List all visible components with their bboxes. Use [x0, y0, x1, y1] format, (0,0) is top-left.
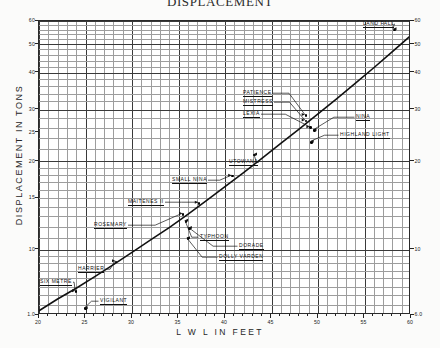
axis-tick-label: 30	[20, 106, 35, 112]
axis-tick-label: 45	[264, 319, 278, 325]
axis-tick	[354, 314, 355, 316]
annotation-utowana: UTOWANA	[229, 158, 258, 166]
axis-tick-label: 10	[20, 246, 35, 252]
axis-tick	[289, 314, 290, 316]
data-point	[84, 307, 87, 310]
chart-page: DISPLACEMENT DISPLACEMENT IN TONS L W L …	[0, 0, 440, 348]
data-point	[310, 141, 313, 144]
axis-tick	[410, 108, 414, 109]
axis-tick	[159, 314, 160, 316]
axis-tick	[224, 314, 225, 318]
axis-tick-label: 1.0	[20, 311, 35, 317]
axis-tick	[410, 160, 414, 161]
y-axis-title: DISPLACEMENT IN TONS	[14, 75, 24, 235]
axis-tick	[35, 43, 39, 44]
axis-tick-label: 35	[171, 319, 185, 325]
axis-tick	[410, 20, 414, 21]
axis-tick	[38, 314, 39, 318]
axis-tick	[400, 314, 401, 316]
axis-tick-label: 20	[20, 158, 35, 164]
axis-tick	[410, 314, 414, 315]
annotation-six-metre: SIX METRE	[40, 278, 72, 286]
axis-tick-label: 30	[415, 106, 431, 112]
axis-tick	[363, 314, 364, 318]
axis-tick	[103, 314, 104, 316]
axis-tick	[56, 314, 57, 316]
axis-tick	[112, 314, 113, 316]
axis-tick	[410, 248, 414, 249]
data-point	[185, 220, 188, 223]
axis-tick-label: 60	[415, 17, 431, 23]
axis-tick	[35, 20, 39, 21]
annotation-harrier: HARRIER	[78, 265, 104, 273]
axis-tick-label: 10	[415, 246, 431, 252]
chart-title: DISPLACEMENT	[0, 0, 440, 10]
axis-tick	[410, 43, 414, 44]
axis-tick	[298, 314, 299, 316]
axis-tick	[317, 314, 318, 318]
axis-tick	[345, 314, 346, 316]
annotation-patience: PATIENCE	[243, 89, 272, 97]
axis-tick-label: 20	[31, 319, 45, 325]
axis-tick	[382, 314, 383, 316]
data-point	[305, 114, 308, 117]
axis-tick	[35, 71, 39, 72]
x-axis-title: L W L IN FEET	[120, 327, 320, 337]
axis-tick-label: 30	[124, 319, 138, 325]
axis-tick-label: 60	[20, 17, 35, 23]
axis-tick	[35, 160, 39, 161]
axis-tick-label: 60	[403, 319, 417, 325]
annotation-small-nina: SMALL NINA	[172, 176, 207, 184]
axis-tick	[186, 314, 187, 316]
axis-tick	[372, 314, 373, 316]
axis-tick	[140, 314, 141, 316]
axis-tick-label: 25	[20, 129, 35, 135]
axis-tick	[233, 314, 234, 316]
axis-tick	[35, 248, 39, 249]
data-point	[188, 227, 191, 230]
annotation-mistress: MISTRESS	[243, 98, 273, 106]
data-point	[309, 126, 312, 129]
axis-tick-label: 50	[20, 41, 35, 47]
axis-tick	[326, 314, 327, 316]
annotation-dolly-varden: DOLLY VARDEN	[219, 253, 263, 261]
axis-tick	[270, 314, 271, 318]
annotation-typhoon: TYPHOON	[200, 233, 229, 241]
axis-tick	[242, 314, 243, 316]
axis-tick-label: 15	[20, 194, 35, 200]
axis-tick	[75, 314, 76, 316]
axis-tick-label: 55	[357, 319, 371, 325]
annotation-land-fall: LAND FALL	[363, 20, 394, 28]
axis-tick	[66, 314, 67, 316]
axis-tick	[279, 314, 280, 316]
axis-tick-label: 20	[415, 158, 431, 164]
axis-tick	[196, 314, 197, 316]
axis-tick-label: 40	[217, 319, 231, 325]
axis-tick	[205, 314, 206, 316]
axis-tick	[410, 314, 411, 318]
annotation-maitenes-ii: MAITENES II	[128, 198, 164, 206]
data-point	[198, 202, 201, 205]
annotation-vigilant: VIGILANT	[100, 297, 127, 305]
axis-tick-label: 6.0	[415, 311, 431, 317]
axis-tick	[168, 314, 169, 316]
axis-tick	[214, 314, 215, 316]
data-point	[313, 129, 316, 132]
data-point	[393, 29, 396, 32]
axis-tick	[177, 314, 178, 318]
axis-tick	[84, 314, 85, 318]
axis-tick-label: 50	[310, 319, 324, 325]
axis-tick-label: 40	[415, 69, 431, 75]
axis-tick	[93, 314, 94, 316]
axis-tick	[35, 131, 39, 132]
axis-tick-label: 50	[415, 41, 431, 47]
axis-tick-label: 25	[78, 319, 92, 325]
annotation-lexia: LEXIA	[243, 110, 260, 118]
axis-tick	[35, 314, 39, 315]
axis-tick-label: 40	[20, 69, 35, 75]
annotation-dorade: DORADE	[239, 242, 264, 250]
axis-tick	[335, 314, 336, 316]
axis-tick	[35, 108, 39, 109]
axis-tick	[149, 314, 150, 316]
data-point	[187, 237, 190, 240]
